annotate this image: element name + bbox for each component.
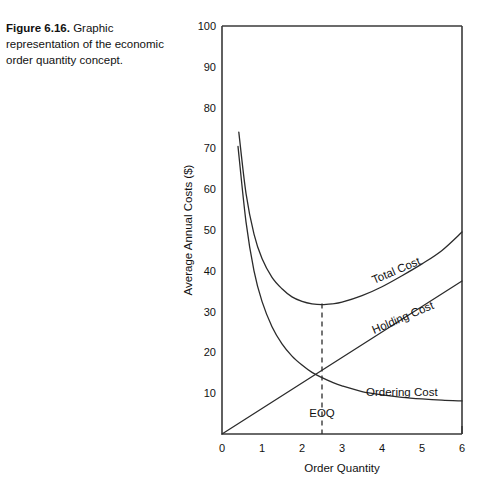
y-tick-30: 30 bbox=[204, 306, 216, 318]
y-tick-50: 50 bbox=[204, 224, 216, 236]
y-tick-10: 10 bbox=[204, 387, 216, 399]
x-tick-3: 3 bbox=[339, 442, 345, 454]
x-tick-6: 6 bbox=[459, 442, 465, 454]
x-tick-4: 4 bbox=[379, 442, 385, 454]
eoq-label: EOQ bbox=[309, 407, 335, 419]
x-tick-1: 1 bbox=[259, 442, 265, 454]
x-tick-0: 0 bbox=[219, 442, 225, 454]
y-tick-60: 60 bbox=[204, 183, 216, 195]
y-tick-20: 20 bbox=[204, 346, 216, 358]
ordering-cost-curve bbox=[238, 146, 462, 401]
figure-caption: Figure 6.16. Graphic representation of t… bbox=[6, 20, 178, 68]
y-tick-70: 70 bbox=[204, 142, 216, 154]
y-tick-100: 100 bbox=[198, 20, 216, 32]
total-cost-curve bbox=[239, 132, 462, 305]
y-axis-ticks: 100 90 80 70 60 50 40 30 20 10 bbox=[198, 20, 216, 399]
x-axis-ticks: 0 1 2 3 4 5 6 bbox=[219, 442, 465, 454]
x-tick-2: 2 bbox=[299, 442, 305, 454]
ordering-cost-label: Ordering Cost bbox=[366, 386, 438, 398]
figure-number: Figure 6.16. bbox=[6, 22, 70, 34]
holding-cost-label: Holding Cost bbox=[370, 299, 436, 336]
y-tick-90: 90 bbox=[204, 61, 216, 73]
axis-lines bbox=[222, 26, 462, 434]
y-tick-40: 40 bbox=[204, 265, 216, 277]
total-cost-label: Total Cost bbox=[370, 255, 422, 286]
chart-canvas: 100 90 80 70 60 50 40 30 20 10 0 1 2 3 4… bbox=[178, 8, 488, 478]
x-tick-5: 5 bbox=[419, 442, 425, 454]
x-axis-title: Order Quantity bbox=[304, 462, 380, 474]
economic-order-quantity-chart: 100 90 80 70 60 50 40 30 20 10 0 1 2 3 4… bbox=[178, 8, 488, 478]
y-tick-80: 80 bbox=[204, 102, 216, 114]
y-axis-title: Average Annual Costs ($) bbox=[182, 164, 194, 295]
